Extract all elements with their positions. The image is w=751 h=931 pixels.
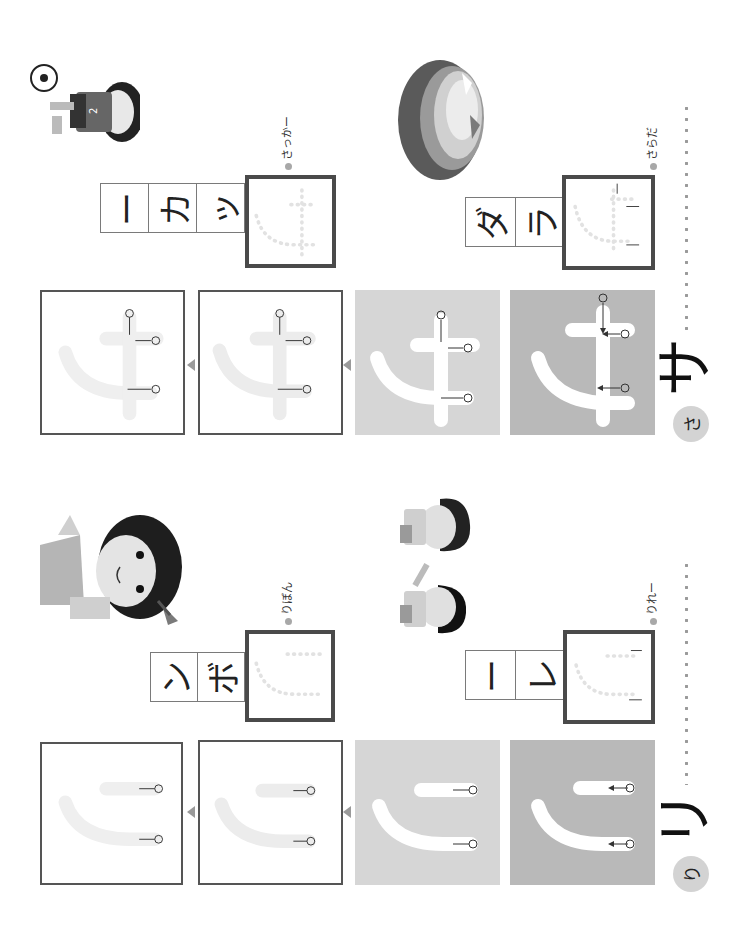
stroke-step-2 [355, 740, 500, 885]
next-step-arrow [343, 806, 351, 818]
reading-label: さっかー [278, 116, 294, 170]
word-cells: ン ボ [150, 652, 245, 702]
dotted-guide-line [685, 560, 688, 785]
stroke-step-3 [198, 740, 343, 885]
trace-box[interactable] [563, 630, 655, 724]
reading-circle-sa: さ [673, 406, 709, 442]
section-character-ri: リ [656, 790, 714, 848]
bullet-dot [285, 163, 292, 170]
stroke-step-1 [510, 740, 655, 885]
section-character-sa: サ [656, 338, 714, 396]
trace-box[interactable] [245, 630, 335, 722]
salad-picture [392, 55, 487, 185]
stroke-step-4[interactable] [40, 290, 185, 435]
trace-box[interactable] [245, 175, 336, 268]
word-cell: ラ [515, 198, 565, 246]
word-cell: ー [101, 184, 148, 232]
soccer-player-picture: 2 [30, 62, 140, 172]
bullet-dot [650, 163, 657, 170]
word-cell: カ [148, 184, 196, 232]
word-cell: ッ [196, 184, 244, 232]
girl-with-ribbon-picture [40, 505, 185, 630]
next-step-arrow [187, 359, 195, 371]
word-relay: ー レ [465, 630, 665, 725]
reading-label: りれー [643, 582, 659, 625]
bullet-dot [285, 618, 292, 625]
stroke-step-1 [510, 290, 655, 435]
word-cell: レ [515, 651, 565, 699]
stroke-step-4[interactable] [40, 742, 183, 885]
word-ribbon: ン ボ [150, 630, 340, 720]
next-step-arrow [187, 806, 195, 818]
reading-label: りぼん [278, 582, 294, 625]
dotted-guide-line [685, 103, 688, 333]
stroke-step-2 [355, 290, 500, 435]
word-cells: ー レ [465, 650, 565, 700]
next-step-arrow [343, 359, 351, 371]
reading-circle-ri: り [673, 856, 709, 892]
word-salad: ダ ラ [465, 175, 665, 270]
stroke-step-3 [198, 290, 343, 435]
word-cells: ダ ラ [465, 197, 565, 247]
word-cell: ン [151, 653, 197, 701]
word-soccer: ー カ ッ [100, 175, 336, 255]
word-cell: ダ [466, 198, 515, 246]
word-cell: ー [466, 651, 515, 699]
relay-runners-picture [400, 495, 515, 640]
word-cell: ボ [197, 653, 244, 701]
reading-label: さらだ [643, 127, 659, 170]
bullet-dot [650, 618, 657, 625]
trace-box[interactable] [562, 175, 655, 270]
word-cells: ー カ ッ [100, 183, 245, 233]
svg-text:2: 2 [88, 108, 99, 114]
